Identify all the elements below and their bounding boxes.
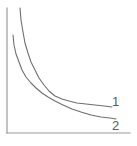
series-group (13, 8, 116, 119)
two-decay-curves-figure: 1 2 (0, 0, 137, 146)
curve-2 (13, 35, 116, 119)
curve-2-label: 2 (112, 119, 119, 132)
axes-group (7, 8, 130, 133)
curve-1 (20, 8, 112, 107)
curve-1-label: 1 (112, 95, 119, 108)
